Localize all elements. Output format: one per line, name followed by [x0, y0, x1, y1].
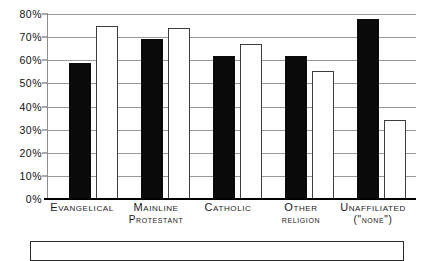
x-axis-line: [44, 198, 416, 200]
x-label-mainline-line2: Protestant: [112, 214, 200, 227]
bar-other-religion-black: [285, 56, 307, 199]
y-tick-label-50: 50%: [19, 77, 42, 89]
y-tick-label-80: 80%: [19, 8, 42, 20]
y-tick-label-10: 10%: [19, 170, 42, 182]
bar-catholic-black: [213, 56, 235, 199]
caption-box: [30, 241, 404, 261]
y-tick-label-30: 30%: [19, 124, 42, 136]
bar-evangelical-white: [96, 26, 118, 199]
y-tick-label-20: 20%: [19, 147, 42, 159]
x-label-unaffiliated-line1: Unaffiliated: [340, 201, 406, 213]
y-tick-label-70: 70%: [19, 31, 42, 43]
y-tick-label-40: 40%: [19, 101, 42, 113]
bar-unaffiliated-white: [384, 120, 406, 199]
x-label-unaffiliated-line2: ("none"): [324, 214, 421, 227]
bar-mainline-black: [141, 39, 163, 199]
bar-other-religion-white: [312, 71, 334, 199]
bar-catholic-white: [240, 44, 262, 199]
x-label-evangelical-line1: Evangelical: [50, 201, 114, 213]
x-label-catholic-line1: Catholic: [205, 201, 252, 213]
bar-unaffiliated-black: [357, 19, 379, 199]
x-label-other-religion-line1: Other: [284, 201, 317, 213]
plot-area: [48, 14, 416, 199]
x-axis-labels: Evangelical Mainline Protestant Catholic…: [0, 201, 421, 246]
x-label-catholic: Catholic: [186, 201, 270, 214]
gridline-80: [48, 14, 416, 15]
y-tick-label-60: 60%: [19, 54, 42, 66]
y-axis-line: [47, 13, 48, 199]
bar-evangelical-black: [69, 63, 91, 199]
x-label-unaffiliated: Unaffiliated ("none"): [324, 201, 421, 226]
x-label-mainline-line1: Mainline: [133, 201, 178, 213]
bar-mainline-white: [168, 28, 190, 199]
